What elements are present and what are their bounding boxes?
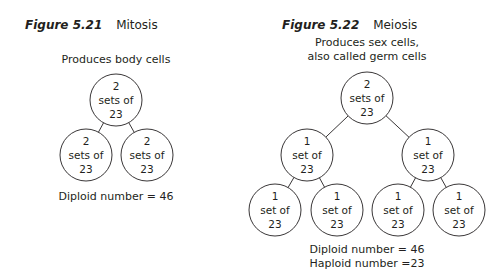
cell-label: set of [444,204,474,216]
cell-label: 23 [140,163,153,175]
cell-label: 2 [83,135,90,147]
connector-line [319,178,324,187]
cell-label: 23 [421,163,434,175]
cell-label: 23 [79,163,92,175]
cell-circle: 2sets of23 [60,129,112,181]
cell-circle: 1set of23 [402,129,454,181]
cell-label: 23 [300,163,313,175]
cell-label: sets of [350,92,385,104]
connector-line [288,177,294,187]
cell-label: set of [292,149,322,161]
cell-circle: 1set of23 [433,184,485,236]
cell-label: 1 [395,190,402,202]
cell-label: set of [383,204,413,216]
cell-label: sets of [99,94,134,106]
cell-label: 2 [144,135,151,147]
cell-label: 1 [456,190,463,202]
connector-line [98,123,103,132]
cell-label: 23 [360,106,373,118]
cell-label: 1 [425,135,432,147]
connector-line [129,123,134,133]
cell-label: set of [260,204,290,216]
cell-circle: 2sets of23 [341,72,393,124]
cell-label: set of [413,149,443,161]
connector-line [441,178,446,188]
cell-label: 2 [113,80,120,92]
cell-label: 23 [330,218,343,230]
connector-line [410,178,415,187]
cell-label: sets of [130,149,165,161]
cell-label: 23 [391,218,404,230]
cell-circle: 1set of23 [372,184,424,236]
cell-label: 23 [452,218,465,230]
cell-label: 1 [304,135,311,147]
cell-circle: 2sets of23 [90,74,142,126]
connector-line [386,116,409,137]
cell-label: sets of [69,149,104,161]
cell-circle: 1set of23 [311,184,363,236]
connector-line [326,116,348,137]
cell-circle: 1set of23 [281,129,333,181]
cell-label: 1 [272,190,279,202]
cell-circle: 2sets of23 [121,129,173,181]
cell-label: set of [322,204,352,216]
cell-label: 23 [268,218,281,230]
cell-label: 2 [364,78,371,90]
cell-label: 1 [334,190,341,202]
cell-label: 23 [109,108,122,120]
cell-division-diagram: 2sets of232sets of232sets of232sets of23… [0,0,500,275]
cell-circle: 1set of23 [249,184,301,236]
